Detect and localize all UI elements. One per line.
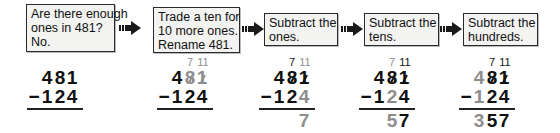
minuend-tens-crossed: 8 xyxy=(487,68,498,87)
step-4-line-1: Subtract the xyxy=(369,16,434,30)
minuend-ones-crossed: 1 xyxy=(399,68,410,87)
minus-sign: − xyxy=(27,87,41,106)
problem-1: 4 8 1 − 1 2 4 xyxy=(26,56,106,126)
subtrahend-hundreds: 1 xyxy=(40,87,54,106)
step-2-line-1: Trade a ten for xyxy=(158,10,235,24)
problem-4: 7 11 4 8 1 − 1 2 4 5 7 xyxy=(358,56,438,126)
minuend-tens-crossed: 8 xyxy=(287,68,298,87)
step-1-line-1: Are there enough xyxy=(31,7,110,21)
answer-line xyxy=(27,108,83,110)
step-2-line-3: Rename 481. xyxy=(158,38,235,52)
problem-2: 7 11 4 8 1 − 1 2 4 xyxy=(156,56,236,126)
minuend-hundreds: 4 xyxy=(272,68,286,87)
subtrahend-ones: 4 xyxy=(497,87,511,106)
step-2-line-2: 10 more ones. xyxy=(158,24,235,38)
minuend-hundreds: 4 xyxy=(40,68,54,87)
subtrahend-ones: 4 xyxy=(397,87,411,106)
subtrahend-hundreds: 1 xyxy=(170,87,184,106)
minus-sign: − xyxy=(259,87,273,106)
result-ones: 7 xyxy=(497,111,511,130)
step-5-box: Subtract the hundreds. xyxy=(463,13,538,46)
step-2-box: Trade a ten for 10 more ones. Rename 481… xyxy=(153,7,240,53)
minuend-ones-crossed: 1 xyxy=(499,68,510,87)
subtrahend-ones: 4 xyxy=(65,87,79,106)
result-ones: 7 xyxy=(297,111,311,130)
subtrahend-hundreds: 1 xyxy=(472,87,486,106)
minuend-ones: 1 xyxy=(65,68,79,87)
minuend-hundreds: 4 xyxy=(472,68,486,87)
problem-5: 7 11 4 8 1 − 1 2 4 3 5 7 xyxy=(458,56,538,126)
step-4-line-2: tens. xyxy=(369,30,434,44)
step-3-line-2: ones. xyxy=(269,30,333,44)
step-4-box: Subtract the tens. xyxy=(364,13,439,46)
minuend-ones-crossed: 1 xyxy=(197,68,208,87)
step-3-box: Subtract the ones. xyxy=(264,13,338,46)
minus-sign: − xyxy=(459,87,473,106)
minuend-hundreds: 4 xyxy=(170,68,184,87)
right-arrow-icon xyxy=(242,22,264,36)
answer-line xyxy=(157,108,213,110)
subtrahend-hundreds: 1 xyxy=(372,87,386,106)
subtrahend-ones: 4 xyxy=(297,87,311,106)
minuend-hundreds: 4 xyxy=(372,68,386,87)
right-arrow-icon xyxy=(341,22,363,36)
problem-3: 7 11 4 8 1 − 1 2 4 7 xyxy=(258,56,338,126)
subtrahend-hundreds: 1 xyxy=(272,87,286,106)
step-1-box: Are there enough ones in 481? No. xyxy=(26,4,115,52)
step-5-line-2: hundreds. xyxy=(468,30,533,44)
minus-sign: − xyxy=(359,87,373,106)
result-hundreds: 3 xyxy=(472,111,486,130)
step-5-line-1: Subtract the xyxy=(468,16,533,30)
minuend-tens-crossed: 8 xyxy=(387,68,398,87)
minuend-tens-crossed: 8 xyxy=(185,68,196,87)
subtrahend-ones: 4 xyxy=(195,87,209,106)
step-1-line-2: ones in 481? xyxy=(31,21,110,35)
step-3-line-1: Subtract the xyxy=(269,16,333,30)
right-arrow-icon xyxy=(119,21,141,35)
right-arrow-icon xyxy=(440,22,462,36)
minuend-ones-crossed: 1 xyxy=(299,68,310,87)
minus-sign: − xyxy=(157,87,171,106)
result-ones: 7 xyxy=(397,111,411,130)
step-1-line-3: No. xyxy=(31,35,110,49)
